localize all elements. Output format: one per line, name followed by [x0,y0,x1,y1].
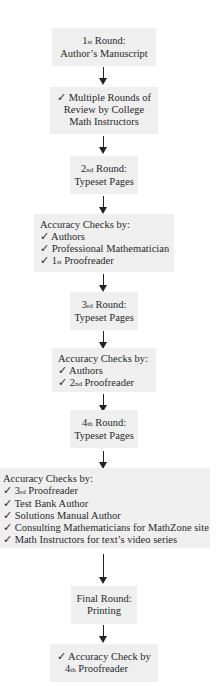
step-round1-subtitle: Author’s Manuscript [52,48,156,60]
step-final-title: Final Round: [71,593,137,605]
step-round4-subtitle: Typeset Pages [70,430,138,442]
step-checks3-box: Accuracy Checks by: ✓ Authors ✓ 2nd Proo… [52,348,156,392]
step-checks3-item: ✓ Authors [58,365,156,377]
step-round1-title: 1st Round: [52,35,156,48]
arrow-down-icon [99,136,107,154]
step-round3-box: 3rd Round: Typeset Pages [70,292,138,330]
step-round1-box: 1st Round: Author’s Manuscript [52,28,156,66]
step-checks4-item: ✓ Consulting Mathematicians for MathZone… [3,522,210,534]
step-final-subtitle: Printing [71,605,137,617]
arrow-down-icon [99,196,107,214]
step-round2-subtitle: Typeset Pages [70,176,138,188]
step-checks4-item: ✓ Test Bank Author [3,498,210,510]
step-checks2-heading: Accuracy Checks by: [40,219,174,231]
step-review-box: ✓ Multiple Rounds of Review by College M… [50,87,158,134]
step-checks4-item: ✓ Solutions Manual Author [3,510,210,522]
step-review-line-1: ✓ Multiple Rounds of [50,92,158,104]
step-checks2-box: Accuracy Checks by: ✓ Authors ✓ Professi… [34,214,174,272]
step-checks4-heading: Accuracy Checks by: [3,473,210,485]
step-review-line-3: Math Instructors [50,116,158,128]
step-checkfinal-line-2: 4th Proofreader [57,663,158,676]
arrow-down-icon [99,554,107,584]
step-checks4-item: ✓ 3rd Proofreader [3,485,210,498]
arrow-down-icon [99,625,107,643]
step-final-box: Final Round: Printing [71,586,137,624]
step-round4-title: 4th Round: [70,417,138,430]
step-checkfinal-line-1: ✓ Accuracy Check by [57,651,158,663]
step-review-line-2: Review by College [50,104,158,116]
step-checks4-item: ✓ Math Instructors for text’s video seri… [3,534,210,546]
step-checks2-item: ✓ 1st Proofreader [40,255,174,268]
step-round3-subtitle: Typeset Pages [70,312,138,324]
arrow-down-icon [99,331,107,349]
arrow-down-icon [99,451,107,469]
arrow-down-icon [99,274,107,292]
step-round3-title: 3rd Round: [70,299,138,312]
step-checks4-box: Accuracy Checks by: ✓ 3rd Proofreader ✓ … [0,468,210,548]
step-round4-box: 4th Round: Typeset Pages [70,410,138,448]
step-checks3-item: ✓ 2nd Proofreader [58,377,156,390]
arrow-down-icon [99,67,107,85]
step-checks3-heading: Accuracy Checks by: [58,353,156,365]
step-round2-box: 2nd Round: Typeset Pages [70,156,138,194]
step-checkfinal-box: ✓ Accuracy Check by 4th Proofreader [50,644,158,682]
step-round2-title: 2nd Round: [70,163,138,176]
step-checks2-item: ✓ Authors [40,231,174,243]
step-checks2-item: ✓ Professional Mathematician [40,243,174,255]
